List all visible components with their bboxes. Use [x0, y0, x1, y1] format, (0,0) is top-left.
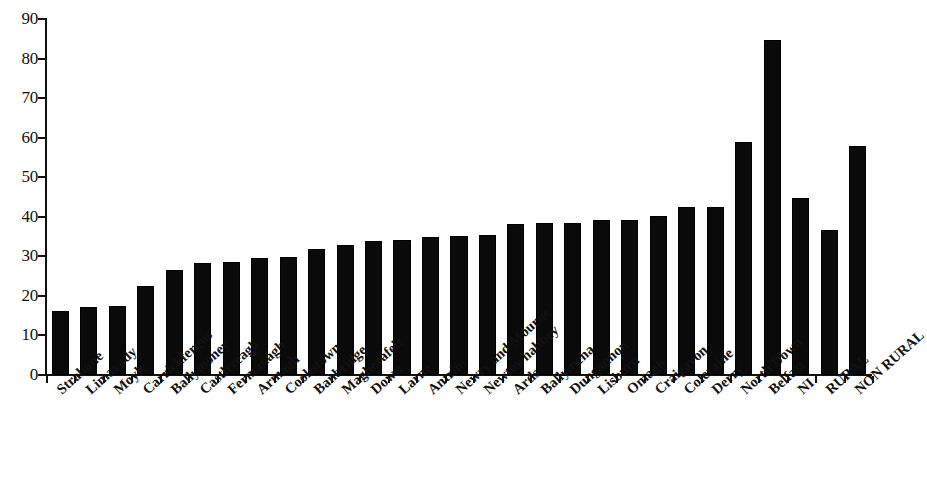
x-axis-tick [787, 376, 789, 383]
x-axis-tick [245, 376, 247, 383]
y-axis-tick-label-text: 80 [0, 50, 38, 67]
bar [80, 307, 97, 375]
y-axis-tick-label: 70 [0, 89, 38, 106]
y-axis-tick-label: 50 [0, 168, 38, 185]
bar [792, 198, 809, 375]
x-axis-tick [46, 376, 48, 383]
bar [280, 257, 297, 375]
bar [422, 237, 439, 375]
x-axis-tick [274, 376, 276, 383]
y-axis-tick-label-text: 40 [0, 208, 38, 225]
y-axis-tick [38, 255, 46, 257]
x-axis-tick [844, 376, 846, 383]
bar [308, 249, 325, 375]
y-axis-tick-label-text: 10 [0, 326, 38, 343]
y-axis-tick-label-text: 70 [0, 89, 38, 106]
x-axis-tick [730, 376, 732, 383]
bar [337, 245, 354, 375]
y-axis-tick-label-text: 30 [0, 247, 38, 264]
bar [507, 224, 524, 375]
y-axis-tick [38, 374, 46, 376]
bar [223, 262, 240, 375]
bar [109, 306, 126, 375]
y-axis-tick [38, 58, 46, 60]
x-axis-tick [416, 376, 418, 383]
y-axis-tick-label: 10 [0, 326, 38, 343]
y-axis-tick [38, 97, 46, 99]
bar [593, 220, 610, 375]
x-axis-tick [473, 376, 475, 383]
x-axis-tick [587, 376, 589, 383]
y-axis-tick-label: 80 [0, 50, 38, 67]
bar [52, 311, 69, 375]
bar [735, 142, 752, 375]
y-axis-tick-label: 0 [0, 366, 38, 383]
x-axis-tick [131, 376, 133, 383]
bar [393, 240, 410, 375]
x-axis-tick [103, 376, 105, 383]
bar [849, 146, 866, 375]
x-axis-tick [530, 376, 532, 383]
x-axis-tick [359, 376, 361, 383]
x-axis-tick [815, 376, 817, 383]
bar [707, 207, 724, 375]
y-axis-tick [38, 295, 46, 297]
bar [678, 207, 695, 375]
y-axis-tick-label: 90 [0, 10, 38, 27]
bar [166, 270, 183, 375]
x-axis-tick [188, 376, 190, 383]
y-axis-tick-label: 60 [0, 129, 38, 146]
x-axis-tick [673, 376, 675, 383]
bar [450, 236, 467, 375]
y-axis-tick-label-text: 20 [0, 287, 38, 304]
y-axis-tick-label: 40 [0, 208, 38, 225]
x-axis-tick [217, 376, 219, 383]
x-axis-tick [388, 376, 390, 383]
bar [764, 40, 781, 375]
x-axis-tick [302, 376, 304, 383]
y-axis-tick [38, 216, 46, 218]
y-axis-tick [38, 334, 46, 336]
x-axis-tick [644, 376, 646, 383]
bar [194, 263, 211, 375]
y-axis-tick-label: 20 [0, 287, 38, 304]
bar [479, 235, 496, 375]
bar [821, 230, 838, 375]
bar [621, 220, 638, 375]
x-axis-tick [701, 376, 703, 383]
bar [365, 241, 382, 375]
bar [137, 286, 154, 375]
bar [536, 223, 553, 375]
x-axis-tick [74, 376, 76, 383]
x-axis-tick [445, 376, 447, 383]
x-axis-tick [331, 376, 333, 383]
x-axis-tick [758, 376, 760, 383]
x-axis-tick [160, 376, 162, 383]
bar [650, 216, 667, 375]
y-axis-tick [38, 18, 46, 20]
bars-layer [46, 19, 872, 375]
y-axis-tick-label: 30 [0, 247, 38, 264]
bar [564, 223, 581, 375]
x-axis-category-label: NI [795, 375, 817, 397]
y-axis-tick-label-text: 90 [0, 10, 38, 27]
x-axis-tick [616, 376, 618, 383]
y-axis-tick [38, 176, 46, 178]
x-axis-tick [872, 376, 874, 383]
y-axis-tick-label-text: 60 [0, 129, 38, 146]
y-axis-tick-label-text: 0 [0, 366, 38, 383]
bar [251, 258, 268, 375]
x-axis-tick [502, 376, 504, 383]
y-axis-tick [38, 137, 46, 139]
x-axis-tick [559, 376, 561, 383]
y-axis-tick-label-text: 50 [0, 168, 38, 185]
